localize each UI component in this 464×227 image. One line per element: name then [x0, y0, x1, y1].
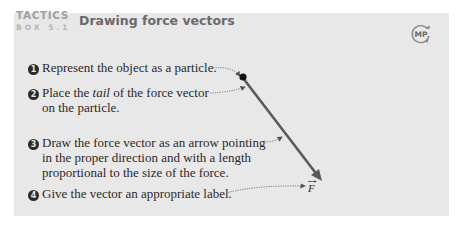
leader-line-3: [265, 137, 282, 142]
particle-dot: [239, 73, 246, 80]
force-vector-diagram: F: [0, 0, 464, 227]
leader-line-2: [210, 87, 245, 93]
leader-line-4: [226, 186, 305, 193]
leader-line-1: [213, 68, 240, 76]
force-vector-arrow: [243, 78, 318, 176]
vector-label: F: [307, 182, 315, 194]
